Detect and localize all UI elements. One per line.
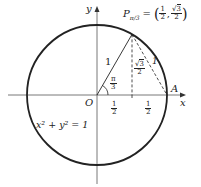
- y-axis-label: y: [86, 4, 92, 14]
- y-axis-arrow-icon: [95, 6, 100, 12]
- point-P-x-fraction: 1 2: [159, 6, 165, 21]
- angle-label: π 3: [110, 75, 117, 91]
- segment-2-label: 1 2: [145, 100, 151, 116]
- radius-label: 1: [105, 57, 111, 67]
- point-P-name: P: [123, 9, 130, 19]
- point-P-equals: =: [143, 9, 151, 19]
- point-P-label: P π/3 = ( 1 2 , √3 2 ): [123, 6, 187, 21]
- chord-label: 1: [152, 57, 158, 66]
- height-label: √3 2: [134, 60, 145, 76]
- point-A-label: A: [171, 84, 178, 94]
- point-P-y-fraction: √3 2: [171, 6, 182, 21]
- circle-equation: x² + y² = 1: [36, 120, 88, 130]
- origin-label: O: [85, 98, 93, 108]
- x-axis-label: x: [180, 98, 186, 108]
- segment-1-label: 1 2: [111, 100, 117, 116]
- angle-arc: [103, 86, 109, 96]
- point-P-subscript: π/3: [130, 15, 140, 21]
